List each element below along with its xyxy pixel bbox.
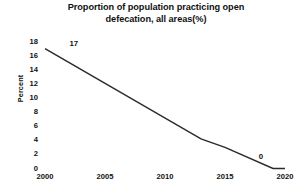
x-tick-label: 2005	[83, 172, 127, 181]
x-tick-label: 2010	[143, 172, 187, 181]
plot-area	[0, 0, 304, 196]
data-line-open-defecation	[45, 49, 285, 169]
x-tick-label: 2015	[203, 172, 247, 181]
x-tick-label: 2020	[263, 172, 304, 181]
x-axis-tick-labels: 20002005201020152020	[0, 172, 304, 188]
x-tick-label: 2000	[23, 172, 67, 181]
chart-container: Proportion of population practicing open…	[0, 0, 304, 196]
data-point-label: 17	[62, 39, 86, 48]
data-point-label: 0	[249, 152, 273, 161]
